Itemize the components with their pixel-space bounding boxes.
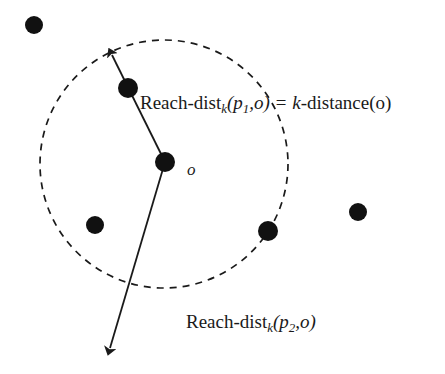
label-reach-dist-p2-args-tail: ,o)	[295, 311, 316, 332]
label-reach-dist-p1-eq-k: k	[292, 92, 300, 113]
dot-p1	[118, 78, 138, 98]
label-reach-dist-p1-args: (p	[227, 92, 243, 113]
dot-inner-lower-left	[86, 216, 104, 234]
dot-outside-top-left	[25, 16, 43, 34]
label-reach-dist-p2-prefix: Reach-dist	[186, 311, 267, 332]
label-reach-dist-p1-args-tail: ,o) =	[249, 92, 292, 113]
dot-center-o	[155, 152, 175, 172]
label-center-point-o: o	[187, 161, 196, 178]
dot-on-circle-right	[258, 221, 278, 241]
label-reach-dist-p2-args: (p	[273, 311, 289, 332]
label-reach-dist-p2: Reach-distk(p2,o)	[186, 312, 316, 335]
label-reach-dist-p1: Reach-distk(p1,o) = k-distance(o)	[140, 93, 391, 116]
label-reach-dist-p1-prefix: Reach-dist	[140, 92, 221, 113]
label-reach-dist-p1-eq-tail: -distance(o)	[301, 92, 392, 113]
dot-outside-right	[349, 203, 367, 221]
reach-dist-p2-line	[110, 162, 165, 348]
reachability-distance-figure: Reach-distk(p1,o) = k-distance(o) Reach-…	[0, 0, 445, 374]
